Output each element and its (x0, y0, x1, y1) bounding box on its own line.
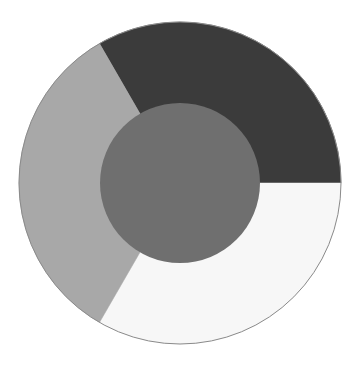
center-circle (100, 103, 260, 263)
diagram-canvas (0, 0, 356, 366)
ring-diagram (0, 0, 356, 366)
